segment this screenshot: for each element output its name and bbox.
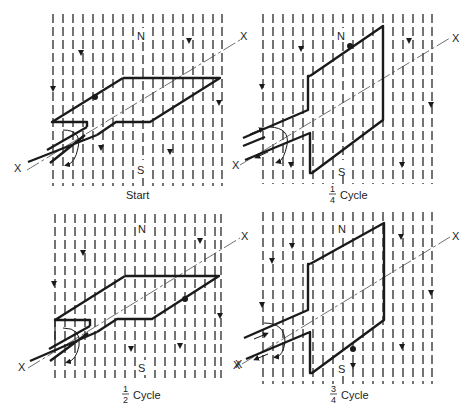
svg-text:Cycle: Cycle bbox=[133, 389, 161, 401]
conductor-dot bbox=[92, 94, 98, 100]
svg-text:Cycle: Cycle bbox=[341, 389, 369, 401]
arrow-down-icon bbox=[128, 346, 134, 352]
magnetic-field-lines bbox=[55, 214, 221, 378]
magnetic-field-lines bbox=[263, 212, 432, 384]
arrow-down-icon bbox=[51, 281, 57, 287]
label-axis-left: X bbox=[235, 358, 243, 370]
arrow-down-icon bbox=[167, 149, 173, 155]
label-south: S bbox=[338, 363, 345, 375]
arrow-down-icon bbox=[399, 162, 405, 168]
conductor-dot bbox=[350, 346, 356, 352]
svg-text:2: 2 bbox=[123, 395, 128, 405]
arrow-down-icon bbox=[350, 363, 356, 369]
arrow-down-icon bbox=[289, 243, 295, 249]
magnetic-field-lines bbox=[263, 14, 432, 184]
label-north: N bbox=[138, 223, 146, 235]
svg-text:4: 4 bbox=[330, 195, 335, 205]
arrow-down-icon bbox=[259, 84, 265, 90]
label-north: N bbox=[137, 30, 145, 42]
label-axis-top-left: X bbox=[240, 30, 248, 42]
arrow-down-icon bbox=[50, 86, 56, 92]
label-axis-left: X bbox=[14, 162, 22, 174]
label-axis-right: X bbox=[452, 230, 460, 242]
arrow-down-icon bbox=[217, 313, 223, 319]
conductor-dot bbox=[347, 43, 353, 49]
field-direction-arrows bbox=[51, 238, 223, 352]
svg-text:3: 3 bbox=[331, 384, 336, 394]
label-axis-right: X bbox=[452, 32, 460, 44]
label-north: N bbox=[338, 223, 346, 235]
label-north: N bbox=[337, 30, 345, 42]
arrow-down-icon bbox=[186, 38, 192, 44]
arrow-down-icon bbox=[177, 343, 183, 349]
rotation-axis bbox=[240, 38, 450, 165]
panel-three-quarter-cycle: N S X X X 3 4 Cycle bbox=[235, 212, 460, 405]
arrow-down-icon bbox=[399, 344, 405, 350]
slip-ring-leads bbox=[243, 137, 265, 146]
label-south: S bbox=[137, 164, 144, 176]
conductor-dot bbox=[182, 296, 188, 302]
caption-start: Start bbox=[126, 189, 149, 201]
generator-diagram: N S X Start bbox=[0, 0, 471, 418]
svg-text:1: 1 bbox=[123, 384, 128, 394]
svg-text:4: 4 bbox=[331, 395, 336, 405]
svg-text:1: 1 bbox=[330, 184, 335, 194]
arrow-down-icon bbox=[428, 290, 434, 296]
label-axis-left: X bbox=[232, 159, 240, 171]
panel-start: N S X Start bbox=[14, 14, 240, 201]
field-direction-arrows bbox=[50, 38, 222, 155]
arrow-down-icon bbox=[428, 102, 434, 108]
caption-quarter-cycle: 1 4 Cycle bbox=[329, 184, 368, 205]
label-axis-top-left: X bbox=[241, 230, 249, 242]
arrow-down-icon bbox=[269, 258, 275, 264]
coil-loop bbox=[52, 78, 220, 135]
slip-ring-leads bbox=[30, 326, 97, 361]
caption-half-cycle: 1 2 Cycle bbox=[122, 384, 161, 405]
svg-text:Cycle: Cycle bbox=[340, 189, 368, 201]
current-arrow-icon bbox=[254, 334, 266, 339]
panel-quarter-cycle: N S X X X 1 4 Cycle bbox=[232, 14, 460, 205]
arrow-down-icon bbox=[259, 302, 265, 308]
caption-three-quarter-cycle: 3 4 Cycle bbox=[330, 384, 369, 405]
label-south: S bbox=[338, 166, 345, 178]
arrow-down-icon bbox=[197, 238, 203, 244]
panel-half-cycle: N S X X 1 2 Cycle bbox=[18, 214, 241, 405]
arrow-down-icon bbox=[216, 100, 222, 106]
label-axis-left: X bbox=[18, 361, 26, 373]
arrow-down-icon bbox=[406, 38, 412, 44]
label-south: S bbox=[138, 362, 145, 374]
